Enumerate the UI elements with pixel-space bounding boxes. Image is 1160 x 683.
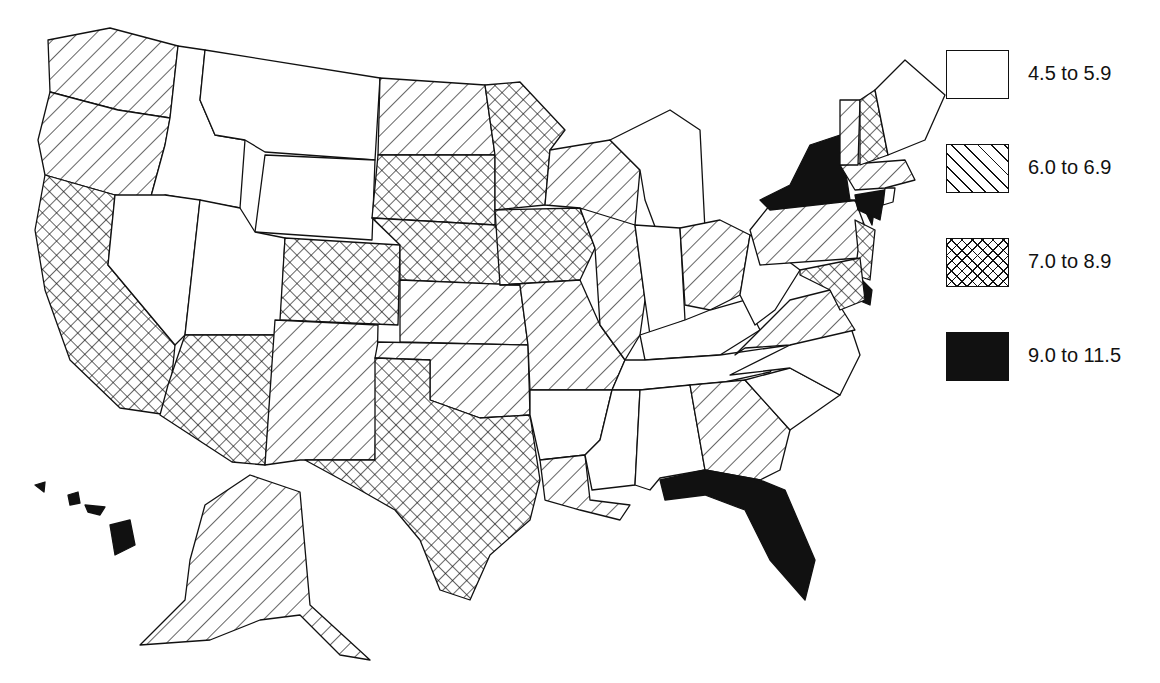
state-pa (750, 200, 870, 265)
state-vt (840, 100, 860, 165)
legend-item-c1: 4.5 to 5.9 (946, 50, 1156, 144)
legend-item-c2: 6.0 to 6.9 (946, 144, 1156, 238)
legend-label: 4.5 to 5.9 (1028, 62, 1111, 85)
state-co (280, 238, 400, 325)
state-me (875, 60, 945, 155)
legend-label: 7.0 to 8.9 (1028, 250, 1111, 273)
legend-swatch-crosshatch (946, 238, 1009, 287)
state-ks (400, 280, 528, 345)
state-hi-island (35, 482, 45, 492)
legend-label: 9.0 to 11.5 (1028, 344, 1121, 367)
state-ri (883, 188, 895, 205)
legend-swatch-hatch (946, 144, 1009, 193)
state-ia (495, 208, 595, 285)
legend-swatch-blank (946, 50, 1009, 99)
state-nd (378, 78, 495, 155)
legend-item-c4: 9.0 to 11.5 (946, 332, 1156, 426)
legend-swatch-solid (946, 332, 1009, 381)
legend: 4.5 to 5.9 6.0 to 6.9 7.0 to 8.9 9.0 to … (946, 50, 1156, 426)
state-nm (265, 320, 378, 465)
state-hi (110, 520, 135, 555)
state-sd (372, 155, 495, 225)
state-fl (660, 470, 815, 600)
state-hi-island (68, 492, 80, 505)
state-wy (255, 155, 375, 240)
state-oh (680, 220, 750, 310)
state-az (160, 335, 275, 465)
legend-item-c3: 7.0 to 8.9 (946, 238, 1156, 332)
state-ak (140, 475, 370, 660)
state-hi-island (85, 505, 105, 515)
legend-label: 6.0 to 6.9 (1028, 156, 1111, 179)
